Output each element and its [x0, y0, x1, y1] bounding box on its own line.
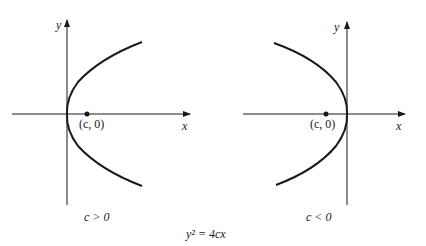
left-y-axis-label: y	[56, 19, 61, 31]
left-focus-label: (c, 0)	[79, 118, 104, 130]
equation-caption: y² = 4cx	[186, 228, 226, 240]
parabola-figure	[0, 0, 426, 246]
left-condition-label: c > 0	[84, 211, 109, 223]
right-focus-point	[324, 112, 329, 117]
right-condition-label: c < 0	[306, 211, 331, 223]
left-x-axis-label: x	[182, 120, 187, 132]
right-y-axis-label: y	[334, 21, 339, 33]
left-panel-axes	[12, 20, 190, 205]
left-focus-point	[85, 112, 90, 117]
right-focus-label: (c, 0)	[310, 118, 335, 130]
right-x-axis-label: x	[396, 120, 401, 132]
